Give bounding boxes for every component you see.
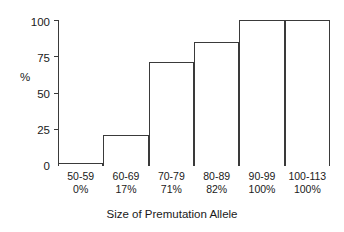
- y-axis-tick-label-group: 100 75 50 25 0: [0, 0, 58, 232]
- bar-slot-80-89: [194, 20, 239, 166]
- x-category-range-70-79: 70-79: [149, 170, 194, 183]
- y-axis-title: %: [20, 72, 30, 83]
- y-tick-label-0: 0: [44, 161, 50, 172]
- bar-slot-70-79: [149, 20, 194, 166]
- bar-slot-90-99: [239, 20, 284, 166]
- bar-70-79[interactable]: [149, 62, 194, 166]
- y-tick-label-50: 50: [37, 89, 50, 100]
- x-category-90-99: 90-99 100%: [239, 170, 284, 196]
- x-category-percent-60-69: 17%: [103, 183, 148, 196]
- x-category-range-80-89: 80-89: [194, 170, 239, 183]
- y-tick-label-75: 75: [37, 53, 50, 64]
- bar-slot-100-113: [285, 20, 330, 166]
- x-category-range-60-69: 60-69: [103, 170, 148, 183]
- x-category-percent-70-79: 71%: [149, 183, 194, 196]
- x-category-range-100-113: 100-113: [285, 170, 330, 183]
- x-category-range-50-59: 50-59: [58, 170, 103, 183]
- x-category-range-90-99: 90-99: [239, 170, 284, 183]
- bar-100-113[interactable]: [285, 20, 330, 166]
- x-category-percent-100-113: 100%: [285, 183, 330, 196]
- bar-60-69[interactable]: [103, 135, 148, 166]
- bar-80-89[interactable]: [194, 42, 239, 166]
- x-axis-title: Size of Premutation Allele: [0, 208, 344, 220]
- x-category-100-113: 100-113 100%: [285, 170, 330, 196]
- x-category-percent-90-99: 100%: [239, 183, 284, 196]
- plot-area: [58, 20, 330, 166]
- x-category-50-59: 50-59 0%: [58, 170, 103, 196]
- y-tick-label-100: 100: [31, 17, 50, 28]
- x-category-70-79: 70-79 71%: [149, 170, 194, 196]
- x-category-80-89: 80-89 82%: [194, 170, 239, 196]
- x-axis-tick-label-group: 50-59 0% 60-69 17% 70-79 71% 80-89 82% 9…: [58, 170, 330, 196]
- bar-90-99[interactable]: [239, 20, 284, 166]
- chart-figure: 100 75 50 25 0 %: [0, 0, 344, 232]
- bar-50-59[interactable]: [58, 163, 103, 166]
- bar-group: [58, 20, 330, 166]
- x-category-percent-50-59: 0%: [58, 183, 103, 196]
- y-tick-label-25: 25: [37, 125, 50, 136]
- bar-slot-50-59: [58, 20, 103, 166]
- bar-slot-60-69: [103, 20, 148, 166]
- x-category-60-69: 60-69 17%: [103, 170, 148, 196]
- x-category-percent-80-89: 82%: [194, 183, 239, 196]
